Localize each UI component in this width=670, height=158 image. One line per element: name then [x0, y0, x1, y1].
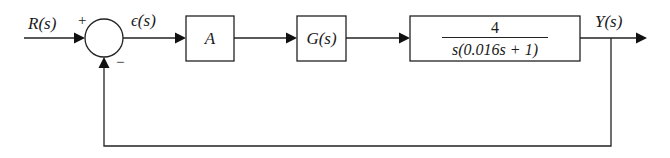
- plant-numerator: 4: [491, 19, 499, 36]
- block-diagram: R(s) + − ϵ(s) A G(s) 4 s(0.016s + 1) Y(s…: [0, 0, 670, 158]
- plant-denominator: s(0.016s + 1): [452, 41, 538, 59]
- summing-junction: [85, 19, 123, 57]
- output-arrow-icon: [636, 33, 647, 44]
- controller-arrow-icon: [286, 33, 297, 44]
- gain-block-label: A: [204, 29, 216, 48]
- error-arrow-icon: [175, 33, 186, 44]
- error-label: ϵ(s): [131, 11, 156, 30]
- output-label: Y(s): [595, 12, 623, 31]
- input-label: R(s): [27, 14, 57, 33]
- plant-arrow-icon: [399, 33, 410, 44]
- input-arrow-icon: [74, 33, 85, 44]
- feedback-arrow-icon: [99, 57, 110, 68]
- plus-sign: +: [78, 12, 86, 28]
- controller-block-label: G(s): [306, 29, 337, 48]
- minus-sign: −: [116, 54, 124, 70]
